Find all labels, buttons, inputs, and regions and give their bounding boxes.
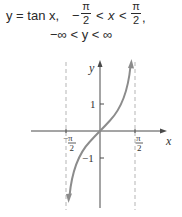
x-tick-label-pi-num: π (136, 133, 141, 143)
x-tick-label-neg-pi-num: −π (63, 133, 73, 143)
y-tick-label-1: 1 (90, 98, 96, 110)
x-axis-label: x (165, 134, 172, 148)
y-tick-label-neg1: −1 (82, 152, 94, 164)
x-axis-arrow-icon (160, 129, 167, 134)
y-axis-arrow-icon (98, 60, 103, 67)
x-tick-label-neg-den: 2 (70, 143, 75, 153)
x-tick-label-den: 2 (137, 143, 142, 153)
curve-arrow-up-icon (128, 59, 134, 69)
tan-plot: y x 1 −1 −π 2 π 2 (0, 0, 182, 217)
y-axis-label: y (88, 61, 95, 75)
curve-arrow-down-icon (66, 194, 72, 204)
